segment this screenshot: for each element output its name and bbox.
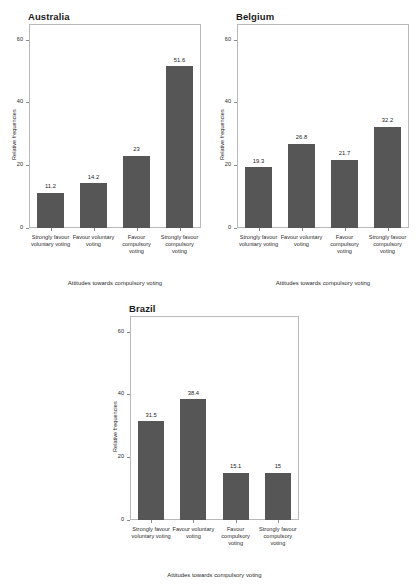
- y-tick-australia-20: [26, 165, 29, 166]
- chart-panel-belgium: Belgium Relative frequencies Attitudes t…: [209, 0, 417, 290]
- y-tick-label-brazil-20: 20: [108, 454, 124, 460]
- x-category-label-australia-1: Favour voluntary voting: [72, 234, 115, 248]
- bar-value-australia-2: 23: [117, 147, 157, 153]
- x-tick-belgium-0: [259, 228, 260, 231]
- x-category-label-brazil-2: Favour compulsory voting: [215, 526, 257, 547]
- y-tick-label-brazil-0: 0: [108, 517, 124, 523]
- x-tick-belgium-3: [388, 228, 389, 231]
- y-tick-label-belgium-40: 40: [215, 99, 231, 105]
- bar-belgium-3: [374, 127, 401, 228]
- y-tick-brazil-40: [127, 394, 130, 395]
- x-category-label-brazil-3: Strongly favour compulsory voting: [257, 526, 299, 547]
- chart-panel-australia: Australia Relative frequencies Attitudes…: [0, 0, 209, 290]
- chart-title-brazil: Brazil: [129, 303, 155, 314]
- chart-title-belgium: Belgium: [236, 11, 274, 22]
- x-axis-title-belgium: Attitudes towards compulsory voting: [237, 280, 409, 286]
- x-tick-belgium-1: [302, 228, 303, 231]
- y-tick-label-australia-60: 60: [7, 37, 23, 43]
- y-axis-title-belgium: Relative frequencies: [220, 109, 226, 160]
- x-tick-australia-2: [137, 228, 138, 231]
- y-tick-label-belgium-60: 60: [215, 37, 231, 43]
- x-tick-brazil-1: [193, 520, 194, 523]
- bar-value-belgium-2: 21.7: [325, 151, 365, 157]
- y-tick-australia-40: [26, 102, 29, 103]
- bar-australia-1: [80, 183, 107, 228]
- y-tick-label-brazil-40: 40: [108, 391, 124, 397]
- bar-value-australia-0: 11.2: [31, 184, 71, 190]
- figure-root: { "figure": { "categories": ["Strongly f…: [0, 0, 417, 587]
- x-axis-title-australia: Attitudes towards compulsory voting: [29, 280, 201, 286]
- x-tick-brazil-2: [236, 520, 237, 523]
- y-tick-label-australia-20: 20: [7, 162, 23, 168]
- bar-value-belgium-0: 19.3: [239, 159, 279, 165]
- y-tick-label-australia-0: 0: [7, 225, 23, 231]
- y-tick-belgium-20: [234, 165, 237, 166]
- x-category-label-belgium-2: Favour compulsory voting: [323, 234, 366, 255]
- x-category-label-brazil-0: Strongly favour voluntary voting: [130, 526, 172, 540]
- y-tick-brazil-20: [127, 457, 130, 458]
- x-tick-brazil-0: [151, 520, 152, 523]
- y-tick-label-belgium-0: 0: [215, 225, 231, 231]
- bar-value-australia-1: 14.2: [74, 175, 114, 181]
- chart-panel-brazil: Brazil Relative frequencies Attitudes to…: [104, 293, 313, 587]
- y-tick-brazil-0: [127, 520, 130, 521]
- y-tick-belgium-0: [234, 228, 237, 229]
- bar-australia-2: [123, 156, 150, 228]
- x-category-label-belgium-3: Strongly favour compulsory voting: [366, 234, 409, 255]
- bar-belgium-1: [288, 144, 315, 228]
- bar-belgium-0: [245, 167, 272, 228]
- y-tick-label-brazil-60: 60: [108, 329, 124, 335]
- x-tick-brazil-3: [278, 520, 279, 523]
- bar-value-brazil-0: 31.5: [131, 413, 171, 419]
- x-category-label-belgium-0: Strongly favour voluntary voting: [237, 234, 280, 248]
- x-category-label-brazil-1: Favour voluntary voting: [172, 526, 214, 540]
- y-tick-belgium-60: [234, 40, 237, 41]
- bar-value-brazil-3: 15: [258, 464, 298, 470]
- y-axis-title-australia: Relative frequencies: [12, 109, 18, 160]
- x-tick-australia-3: [180, 228, 181, 231]
- x-axis-title-brazil: Attitudes towards compulsory voting: [130, 572, 299, 578]
- y-axis-title-brazil: Relative frequencies: [113, 401, 119, 452]
- x-category-label-australia-0: Strongly favour voluntary voting: [29, 234, 72, 248]
- y-tick-belgium-40: [234, 102, 237, 103]
- y-tick-label-australia-40: 40: [7, 99, 23, 105]
- x-tick-australia-0: [51, 228, 52, 231]
- x-tick-australia-1: [94, 228, 95, 231]
- chart-title-australia: Australia: [28, 11, 70, 22]
- y-tick-brazil-60: [127, 332, 130, 333]
- bar-value-belgium-1: 26.8: [282, 135, 322, 141]
- bar-value-brazil-1: 38.4: [173, 391, 213, 397]
- bar-brazil-1: [180, 399, 206, 520]
- bar-brazil-2: [223, 473, 249, 520]
- x-tick-belgium-2: [345, 228, 346, 231]
- x-category-label-australia-3: Strongly favour compulsory voting: [158, 234, 201, 255]
- bar-australia-0: [37, 193, 64, 228]
- bar-value-brazil-2: 15.1: [216, 464, 256, 470]
- x-category-label-belgium-1: Favour voluntary voting: [280, 234, 323, 248]
- bar-brazil-0: [138, 421, 164, 520]
- bar-value-australia-3: 51.6: [160, 58, 200, 64]
- bar-value-belgium-3: 32.2: [368, 118, 408, 124]
- y-tick-australia-0: [26, 228, 29, 229]
- bar-australia-3: [166, 66, 193, 228]
- x-category-label-australia-2: Favour compulsory voting: [115, 234, 158, 255]
- bar-belgium-2: [331, 160, 358, 228]
- bar-brazil-3: [265, 473, 291, 520]
- y-tick-australia-60: [26, 40, 29, 41]
- y-tick-label-belgium-20: 20: [215, 162, 231, 168]
